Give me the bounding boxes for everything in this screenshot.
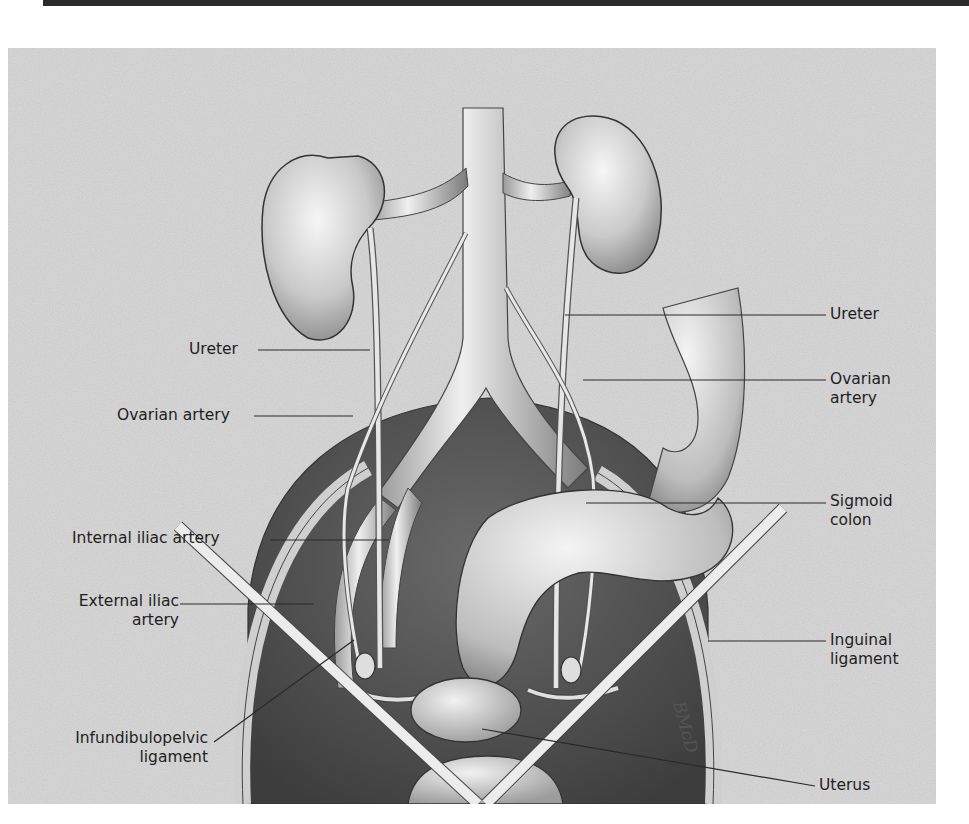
label-ovarian-artery-right: Ovarian artery [830,370,891,408]
label-sigmoid-colon: Sigmoid colon [830,492,893,530]
top-rule [43,0,969,6]
label-external-iliac-line2: artery [45,611,179,630]
left-ovary [355,653,375,679]
label-sigmoid-colon-line2: colon [830,511,893,530]
label-inguinal-ligament-line2: ligament [830,650,899,669]
label-inguinal-ligament-line1: Inguinal [830,631,899,650]
label-sigmoid-colon-line1: Sigmoid [830,492,893,511]
label-external-iliac-line1: External iliac [45,592,179,611]
label-ureter-left: Ureter [189,340,238,359]
anatomy-figure: BMcD Ureter Ovarian artery Internal ilia… [8,48,936,804]
label-uterus: Uterus [819,776,870,795]
label-ovarian-artery-right-line2: artery [830,389,891,408]
label-inguinal-ligament: Inguinal ligament [830,631,899,669]
label-infundibulopelvic-line1: Infundibulopelvic [30,729,208,748]
label-external-iliac-artery: External iliac artery [45,592,179,630]
label-ureter-right: Ureter [830,305,879,324]
label-infundibulopelvic-ligament: Infundibulopelvic ligament [30,729,208,767]
label-internal-iliac-artery: Internal iliac artery [72,529,220,548]
anatomy-illustration: BMcD [8,48,936,804]
label-infundibulopelvic-line2: ligament [30,748,208,767]
label-ovarian-artery-right-line1: Ovarian [830,370,891,389]
label-ovarian-artery-left: Ovarian artery [117,406,230,425]
right-ovary [561,657,581,683]
